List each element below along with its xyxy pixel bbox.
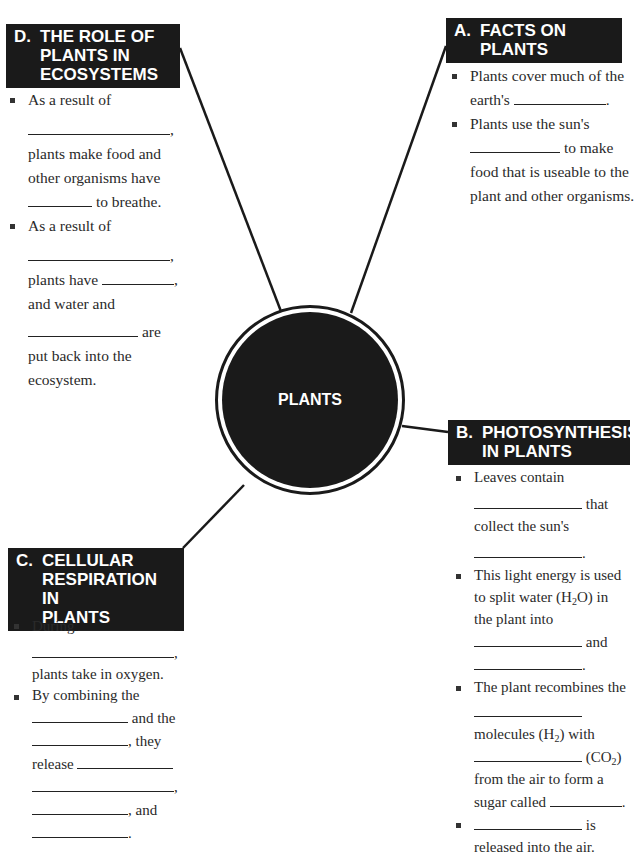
- blank-field[interactable]: [514, 88, 606, 105]
- blank-field[interactable]: [550, 790, 622, 807]
- list-item: This light energy is used to split water…: [452, 564, 638, 676]
- section-b-body: Leaves contain that collect the sun's . …: [452, 466, 638, 856]
- blank-field[interactable]: [474, 700, 582, 717]
- blank-field[interactable]: [28, 244, 170, 261]
- blank-field[interactable]: [32, 641, 174, 658]
- bullet-icon: [452, 122, 457, 127]
- central-topic-label: PLANTS: [278, 391, 342, 409]
- bullet-icon: [456, 823, 461, 828]
- blank-field[interactable]: [78, 614, 174, 631]
- blank-field[interactable]: [32, 706, 128, 723]
- blank-field[interactable]: [102, 268, 174, 285]
- list-item: By combining the and the , they release …: [10, 685, 200, 844]
- blank-field[interactable]: [470, 136, 560, 153]
- bullet-icon: [456, 686, 461, 691]
- section-a-body: Plants cover much of the earth's . Plant…: [448, 64, 638, 208]
- bullet-icon: [10, 98, 15, 103]
- blank-field[interactable]: [474, 813, 582, 830]
- list-item: As a result of , plants make food and ot…: [6, 88, 196, 214]
- list-item: Leaves contain that collect the sun's .: [452, 466, 638, 564]
- blank-field[interactable]: [32, 798, 128, 815]
- section-b-header: B.PHOTOSYNTHESIS IN PLANTS: [448, 420, 630, 465]
- blank-field[interactable]: [32, 729, 128, 746]
- section-d-body: As a result of , plants make food and ot…: [6, 88, 196, 392]
- bullet-icon: [456, 574, 461, 579]
- bullet-icon: [14, 624, 19, 629]
- list-item: Plants use the sun's to make food that i…: [448, 112, 638, 208]
- list-item: As a result of , plants have , and water…: [6, 214, 196, 392]
- list-item: The plant recombines the molecules (H2) …: [452, 676, 638, 813]
- bullet-icon: [456, 476, 461, 481]
- section-a-header: A.FACTS ON PLANTS: [446, 18, 622, 63]
- list-item: During , plants take in oxygen.: [10, 614, 200, 685]
- section-d-header: D.THE ROLE OF PLANTS IN ECOSYSTEMS: [6, 24, 180, 88]
- blank-field[interactable]: [474, 541, 582, 558]
- list-item: Plants cover much of the earth's .: [448, 64, 638, 112]
- section-c-body: During , plants take in oxygen. By combi…: [10, 614, 200, 844]
- blank-field[interactable]: [28, 320, 138, 337]
- bullet-icon: [10, 224, 15, 229]
- blank-field[interactable]: [474, 492, 582, 509]
- blank-field[interactable]: [474, 745, 582, 762]
- blank-field[interactable]: [77, 752, 173, 769]
- blank-field[interactable]: [474, 653, 582, 670]
- blank-field[interactable]: [32, 775, 174, 792]
- blank-field[interactable]: [32, 821, 128, 838]
- blank-field[interactable]: [28, 118, 170, 135]
- blank-field[interactable]: [28, 190, 92, 207]
- bullet-icon: [14, 695, 19, 700]
- list-item: is released into the air.: [452, 813, 638, 856]
- bullet-icon: [452, 74, 457, 79]
- blank-field[interactable]: [474, 630, 582, 647]
- central-topic-circle: PLANTS: [215, 305, 405, 495]
